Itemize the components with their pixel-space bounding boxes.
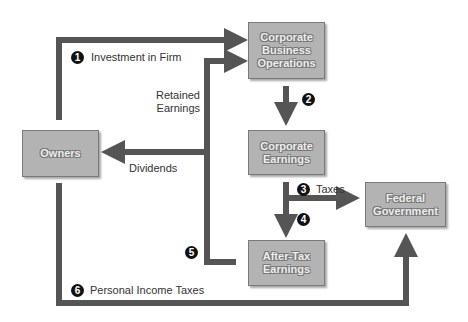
retained-earnings-label: Retained Earnings — [152, 89, 200, 115]
step-badge-1: 1 — [71, 51, 84, 64]
cbo-label: Corporate Business Operations — [249, 31, 324, 70]
investment-label: Investment in Firm — [91, 51, 181, 64]
step-badge-5: 5 — [185, 246, 198, 259]
owners-box: Owners — [22, 130, 99, 177]
owners-label: Owners — [40, 147, 80, 160]
after-tax-earnings-box: After-Tax Earnings — [248, 240, 325, 286]
corporate-earnings-box: Corporate Earnings — [248, 130, 325, 175]
personal-income-taxes-label: Personal Income Taxes — [90, 284, 204, 297]
step-badge-3: 3 — [297, 183, 310, 196]
step-badge-4: 4 — [297, 213, 310, 226]
after-tax-earnings-label: After-Tax Earnings — [249, 250, 324, 276]
step-badge-6: 6 — [71, 284, 84, 297]
taxes-label: Taxes — [316, 183, 345, 196]
corporate-earnings-label: Corporate Earnings — [249, 140, 324, 166]
arrow-retained-earnings — [207, 61, 236, 262]
step-badge-2: 2 — [302, 93, 315, 106]
corporate-business-operations-box: Corporate Business Operations — [248, 22, 325, 79]
dividends-label: Dividends — [129, 162, 177, 175]
federal-government-box: Federal Government — [365, 182, 446, 227]
federal-government-label: Federal Government — [366, 192, 445, 218]
